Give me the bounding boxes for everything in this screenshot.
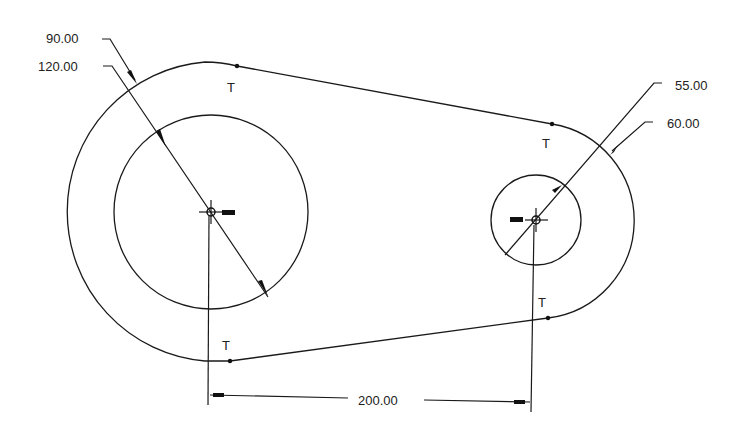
tangent-point-top-left <box>235 64 239 68</box>
right-outer-arc[interactable] <box>548 124 634 318</box>
tangent-point-bottom-right <box>546 316 550 320</box>
extension-line-right <box>531 225 534 412</box>
dimension-55[interactable]: 55.00 <box>505 78 708 255</box>
tangent-constraint-label: T <box>222 338 230 353</box>
tangent-point-bottom-left <box>228 359 232 363</box>
bottom-tangent-line[interactable] <box>230 318 548 361</box>
dimension-label[interactable]: 200.00 <box>358 393 398 408</box>
center-marker-icon <box>222 210 235 215</box>
dimension-60[interactable]: 60.00 <box>610 116 700 155</box>
tangent-constraint-label: T <box>542 136 550 151</box>
center-marker-icon <box>510 217 523 222</box>
dimension-label[interactable]: 120.00 <box>38 59 78 74</box>
dimension-label[interactable]: 55.00 <box>675 78 708 93</box>
tangent-constraint-label: T <box>227 80 235 95</box>
tangent-constraint-label: T <box>538 295 546 310</box>
dimension-label[interactable]: 90.00 <box>46 31 79 46</box>
tangent-point-top-right <box>550 122 554 126</box>
extension-line-left <box>208 215 209 405</box>
dimension-label[interactable]: 60.00 <box>667 116 700 131</box>
sketch-canvas[interactable]: T T T T 90.00 120.00 55.00 60.00 <box>0 0 746 442</box>
dimension-200[interactable]: 200.00 <box>208 215 534 412</box>
top-tangent-line[interactable] <box>237 66 552 124</box>
dimension-90[interactable]: 90.00 <box>46 31 137 84</box>
